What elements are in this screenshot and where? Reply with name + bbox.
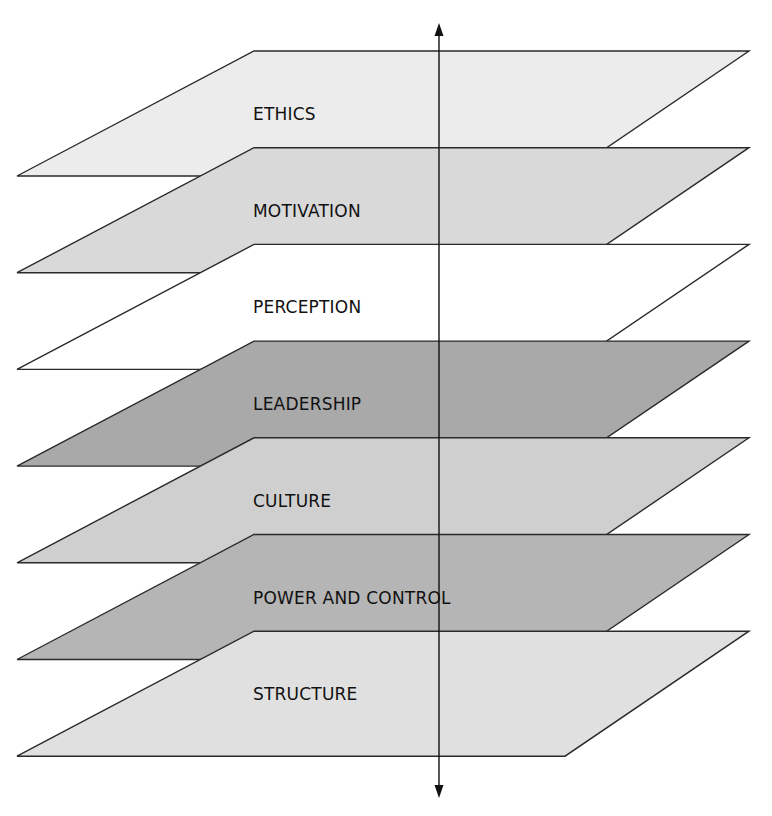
layer-label: STRUCTURE — [253, 684, 357, 704]
layers-svg: ETHICSMOTIVATIONPERCEPTIONLEADERSHIPCULT… — [0, 0, 772, 816]
arrow-up-icon — [435, 23, 444, 36]
layer-label: MOTIVATION — [253, 201, 361, 221]
arrow-down-icon — [435, 785, 444, 798]
planes-group: ETHICSMOTIVATIONPERCEPTIONLEADERSHIPCULT… — [17, 51, 749, 756]
layer-label: LEADERSHIP — [253, 394, 361, 414]
layer-label: CULTURE — [253, 491, 331, 511]
layered-diagram: ETHICSMOTIVATIONPERCEPTIONLEADERSHIPCULT… — [0, 0, 772, 816]
layer-label: POWER AND CONTROL — [253, 588, 451, 608]
layer-label: ETHICS — [253, 104, 316, 124]
layer-label: PERCEPTION — [253, 297, 361, 317]
